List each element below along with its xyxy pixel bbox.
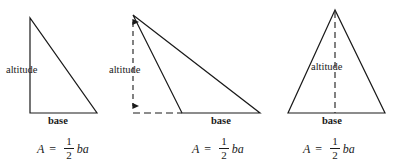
base-label-right-triangle: base	[48, 116, 68, 127]
formula-rhs-3: ba	[343, 143, 355, 155]
formula-equals-2: =	[204, 143, 211, 155]
formula-lhs-3: A	[303, 143, 310, 155]
right-triangle-shape	[30, 18, 97, 113]
formula-numerator-3: 1	[330, 136, 340, 148]
formula-lhs-1: A	[37, 143, 44, 155]
area-formula-obtuse-triangle: A = 1 2 ba	[192, 136, 244, 161]
obtuse-triangle-shape	[133, 15, 260, 113]
base-label-obtuse-triangle: base	[211, 116, 231, 127]
geometry-figure-triangle-area: altitude base A = 1 2 ba altitude base A…	[0, 0, 397, 164]
obtuse-triangle-outline	[133, 15, 260, 113]
formula-denominator-1: 2	[64, 149, 74, 161]
formula-equals-1: =	[49, 143, 56, 155]
formula-fraction-3: 1 2	[330, 136, 340, 161]
formula-lhs-2: A	[192, 143, 199, 155]
altitude-label-acute-triangle: altitude	[311, 62, 343, 73]
formula-rhs-2: ba	[232, 143, 244, 155]
area-formula-acute-triangle: A = 1 2 ba	[303, 136, 355, 161]
base-label-acute-triangle: base	[322, 116, 342, 127]
formula-fraction-1: 1 2	[64, 136, 74, 161]
formula-denominator-2: 2	[219, 149, 229, 161]
formula-denominator-3: 2	[330, 149, 340, 161]
formula-rhs-1: ba	[77, 143, 89, 155]
formula-numerator-1: 1	[64, 136, 74, 148]
formula-numerator-2: 1	[219, 136, 229, 148]
area-formula-right-triangle: A = 1 2 ba	[37, 136, 89, 161]
right-triangle-outline	[30, 18, 97, 113]
formula-fraction-2: 1 2	[219, 136, 229, 161]
formula-equals-3: =	[315, 143, 322, 155]
altitude-label-right-triangle: altitude	[6, 65, 38, 76]
altitude-label-obtuse-triangle: altitude	[109, 65, 141, 76]
